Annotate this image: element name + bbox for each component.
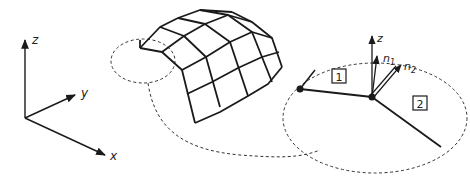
connector-curve	[148, 83, 320, 157]
y-axis	[25, 95, 75, 118]
diagram-canvas: z y x z n1	[0, 0, 470, 190]
vertex-detail: z n1 n2 1 2	[297, 32, 442, 147]
n2-label: n2	[404, 60, 416, 75]
y-axis-label: y	[80, 86, 89, 100]
n2-vector	[373, 65, 401, 98]
n1-label: n1	[383, 52, 395, 67]
z-axis-label: z	[31, 33, 39, 47]
region-2-label: 2	[417, 98, 424, 111]
x-axis	[25, 118, 105, 155]
x-axis-label: x	[109, 149, 118, 163]
region-1-label: 1	[336, 71, 343, 84]
z-vector-label: z	[376, 32, 383, 45]
edge-right	[372, 97, 441, 147]
edge-left-up	[300, 70, 315, 89]
edge-left	[300, 89, 372, 97]
zoom-ellipse-large	[283, 63, 467, 173]
coordinate-axes: z y x	[25, 33, 118, 163]
mesh-surface	[140, 10, 282, 123]
vertex-left	[297, 86, 304, 93]
